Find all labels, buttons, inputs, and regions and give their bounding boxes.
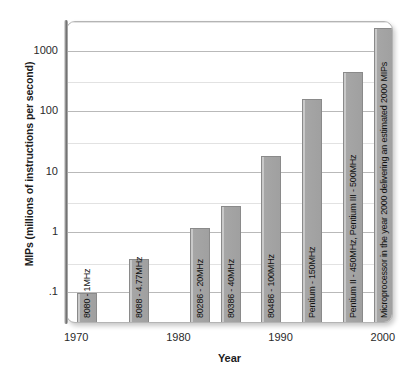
bar-label: 80486 - 100MHz <box>266 254 276 318</box>
y-axis-tick: 1000 <box>14 44 58 56</box>
bar: Pentium - 150MHz <box>302 99 322 322</box>
y-axis-spine <box>64 20 68 324</box>
x-axis-tick: 1990 <box>268 331 292 343</box>
x-axis-tick: 1980 <box>166 331 190 343</box>
bar-label: 80386 - 40MHz <box>226 259 236 318</box>
gridline-minor <box>67 22 392 23</box>
bar: 80486 - 100MHz <box>261 156 281 322</box>
bar: Pentium II - 450MHz, Pentium III - 500MH… <box>343 72 363 322</box>
y-axis-tick: 100 <box>14 104 58 116</box>
bar: 80286 - 20MHz <box>190 228 210 322</box>
bar: 8088 - 4.77MHz <box>129 259 149 322</box>
x-axis-tick: 1970 <box>64 331 88 343</box>
y-axis-tick-labels: 1000100101.1 <box>10 21 58 323</box>
bar: Microprocessor in the year 2000 deliveri… <box>374 28 393 322</box>
bar-label: 8080 - 1MHz <box>82 269 92 318</box>
x-axis-tick-labels: 1970198019902000 <box>66 331 393 347</box>
plot-area: 8080 - 1MHz8088 - 4.77MHz80286 - 20MHz80… <box>66 21 393 323</box>
bar-label: Microprocessor in the year 2000 deliveri… <box>379 62 389 318</box>
bar-label: Pentium - 150MHz <box>307 247 317 318</box>
x-axis-title: Year <box>66 352 393 364</box>
gridline-major <box>67 51 392 52</box>
bar-label: Pentium II - 450MHz, Pentium III - 500MH… <box>348 155 358 318</box>
x-axis-tick: 2000 <box>371 331 395 343</box>
bar-label: 8088 - 4.77MHz <box>134 257 144 318</box>
bar-label: 80286 - 20MHz <box>195 259 205 318</box>
mips-bar-chart: MIPs (millions of instructions per secon… <box>0 0 406 376</box>
y-axis-tick: 10 <box>14 165 58 177</box>
bar: 80386 - 40MHz <box>221 206 241 322</box>
y-axis-tick: .1 <box>14 285 58 297</box>
bar: 8080 - 1MHz <box>77 293 97 322</box>
y-axis-tick: 1 <box>14 225 58 237</box>
